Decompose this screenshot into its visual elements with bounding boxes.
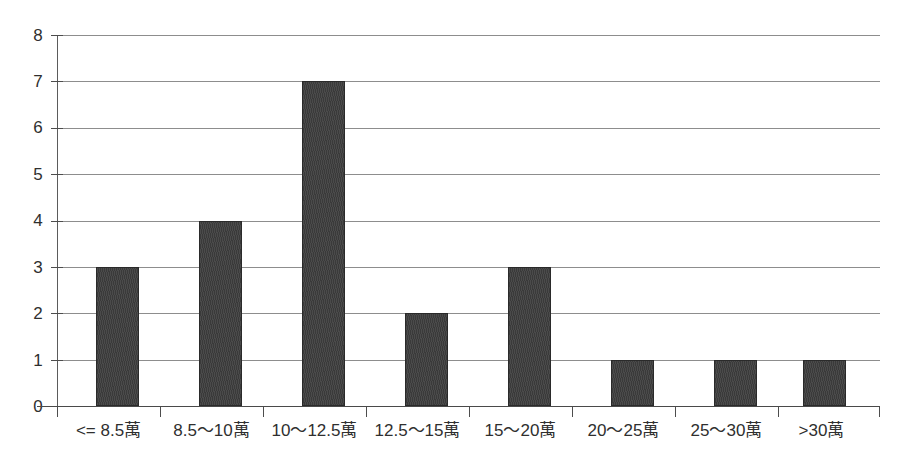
x-axis-category-labels: <= 8.5萬 8.5～10萬 10～12.5萬 12.5～15萬 15～20萬… bbox=[57, 420, 880, 460]
x-label-6: 25～30萬 bbox=[675, 420, 778, 442]
bars-layer bbox=[57, 35, 880, 406]
bar-4[interactable] bbox=[508, 267, 551, 406]
x-axis-line bbox=[37, 406, 880, 407]
bar-0[interactable] bbox=[96, 267, 139, 406]
y-tick-label-3: 3 bbox=[33, 259, 43, 276]
x-label-5: 20～25萬 bbox=[572, 420, 675, 442]
y-tick-label-5: 5 bbox=[33, 166, 43, 183]
x-label-0: <= 8.5萬 bbox=[57, 420, 160, 442]
y-tick-label-1: 1 bbox=[33, 352, 43, 369]
bar-3[interactable] bbox=[405, 313, 448, 406]
y-tick-label-6: 6 bbox=[33, 119, 43, 136]
bar-1[interactable] bbox=[199, 221, 242, 407]
y-tick-label-4: 4 bbox=[33, 212, 43, 229]
x-label-2: 10～12.5萬 bbox=[263, 420, 366, 442]
bar-7[interactable] bbox=[803, 360, 846, 406]
bar-5[interactable] bbox=[611, 360, 654, 406]
x-axis-tick-8 bbox=[879, 407, 880, 417]
x-axis-tick-7 bbox=[778, 407, 779, 417]
y-tick-label-8: 8 bbox=[33, 27, 43, 44]
x-label-4: 15～20萬 bbox=[469, 420, 572, 442]
x-axis-tick-5 bbox=[572, 407, 573, 417]
x-axis-tick-0 bbox=[57, 407, 58, 417]
x-label-1: 8.5～10萬 bbox=[160, 420, 263, 442]
x-axis-tick-6 bbox=[675, 407, 676, 417]
bar-2[interactable] bbox=[302, 81, 345, 406]
x-axis-tick-2 bbox=[263, 407, 264, 417]
y-tick-label-2: 2 bbox=[33, 305, 43, 322]
x-axis-tick-4 bbox=[469, 407, 470, 417]
bar-6[interactable] bbox=[714, 360, 757, 406]
y-axis-tick-labels: 8 7 6 5 4 3 2 1 0 bbox=[0, 0, 57, 475]
x-axis-tick-3 bbox=[366, 407, 367, 417]
x-label-3: 12.5～15萬 bbox=[366, 420, 469, 442]
x-label-7: >30萬 bbox=[770, 420, 873, 442]
y-tick-label-7: 7 bbox=[33, 73, 43, 90]
x-axis-tick-1 bbox=[160, 407, 161, 417]
bar-chart: 8 7 6 5 4 3 2 1 0 bbox=[0, 0, 915, 475]
